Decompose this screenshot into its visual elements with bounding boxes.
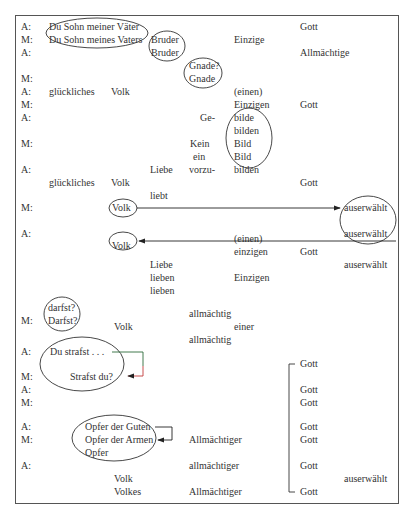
word: Du strafst . . .: [50, 346, 104, 358]
word: Darfst?: [48, 315, 77, 327]
word: Volk: [114, 321, 133, 333]
word: allmächtiger: [189, 460, 239, 472]
speaker-label: M:: [21, 434, 33, 446]
word: Gott: [300, 21, 318, 33]
word: allmächtig: [189, 308, 231, 320]
word: Gott: [300, 358, 318, 370]
word: Bild: [234, 151, 251, 163]
word: auserwählt: [344, 473, 387, 485]
speaker-label: A:: [21, 460, 31, 472]
word: Volk: [111, 86, 130, 98]
word: Volk: [112, 240, 131, 252]
speaker-label: A:: [21, 112, 31, 124]
word: auserwählt: [344, 202, 387, 214]
word: einzigen: [234, 246, 268, 258]
speaker-label: M:: [21, 99, 33, 111]
word: Liebe: [150, 259, 173, 271]
speaker-label: M:: [21, 73, 33, 85]
word: Volk: [112, 202, 131, 214]
word: allmächtig: [189, 334, 231, 346]
word: Kein: [190, 138, 209, 150]
word: auserwählt: [344, 228, 387, 240]
word: bilden: [234, 125, 259, 137]
word: Liebe: [150, 164, 173, 176]
word: Gnade?: [189, 60, 220, 72]
word: Du Sohn meiner Väter: [49, 21, 139, 33]
word: glückliches: [49, 177, 95, 189]
speaker-label: M:: [21, 138, 33, 150]
word: Opfer: [85, 447, 108, 459]
speaker-label: A:: [21, 164, 31, 176]
word: Gott: [300, 99, 318, 111]
word: Gott: [300, 384, 318, 396]
word: Gott: [300, 246, 318, 258]
word: bilden: [234, 164, 259, 176]
word: ein: [193, 151, 205, 163]
word: lieben: [150, 285, 174, 297]
word: Opfer der Guten: [85, 421, 151, 433]
word: auserwählt: [344, 259, 387, 271]
word: Einzigen: [234, 99, 270, 111]
word: Allmächtige: [300, 47, 349, 59]
word: Bild: [234, 138, 251, 150]
word: (einen): [234, 86, 262, 98]
word: bilde: [234, 112, 254, 124]
speaker-label: M:: [21, 371, 33, 383]
word: Gott: [300, 177, 318, 189]
word: Einzigen: [234, 272, 270, 284]
speaker-label: A:: [21, 47, 31, 59]
word: Volk: [111, 177, 130, 189]
speaker-label: M:: [21, 34, 33, 46]
speaker-label: A:: [21, 21, 31, 33]
word: darfst?: [48, 302, 75, 314]
word: Gott: [300, 486, 318, 498]
word: Allmächtiger: [189, 434, 242, 446]
word: glückliches: [49, 86, 95, 98]
speaker-label: M:: [21, 397, 33, 409]
word: Strafst du?: [70, 371, 113, 383]
word: (einen): [234, 233, 262, 245]
word: Opfer der Armen: [85, 434, 153, 446]
word: vorzu-: [189, 164, 215, 176]
speaker-label: A:: [21, 421, 31, 433]
word: Volk: [114, 473, 133, 485]
speaker-label: A:: [21, 384, 31, 396]
word: einer: [234, 321, 254, 333]
word: lieben: [150, 272, 174, 284]
word: Gott: [300, 434, 318, 446]
word: Ge-: [200, 112, 215, 124]
speaker-label: M:: [21, 315, 33, 327]
speaker-label: A:: [21, 86, 31, 98]
speaker-label: M:: [21, 202, 33, 214]
word: Bruder: [151, 47, 179, 59]
word: Du Sohn meines Vaters: [49, 34, 142, 46]
word: Gott: [300, 421, 318, 433]
word: Bruder: [151, 34, 179, 46]
word: liebt: [150, 190, 168, 202]
word: Volkes: [114, 486, 141, 498]
word: Gott: [300, 397, 318, 409]
word: Gnade: [189, 73, 215, 85]
speaker-label: A:: [21, 346, 31, 358]
word: Allmächtiger: [189, 486, 242, 498]
word: Gott: [300, 460, 318, 472]
word: Einzige: [234, 34, 265, 46]
speaker-label: A:: [21, 228, 31, 240]
